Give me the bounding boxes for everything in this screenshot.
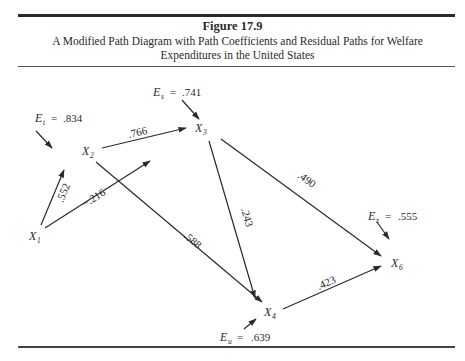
svg-text:X: X — [194, 121, 203, 135]
bottom-rule — [18, 346, 455, 348]
residual-et-x2 — [36, 131, 52, 148]
svg-text:z: z — [375, 216, 379, 225]
path-arrows — [36, 100, 389, 329]
svg-text:.741: .741 — [182, 86, 201, 98]
node-x4: X4 — [263, 305, 276, 321]
svg-text:u: u — [228, 337, 232, 346]
coef-x2-x4: .588 — [182, 229, 205, 251]
residual-es-label: Es =.741 — [152, 85, 201, 101]
svg-text:=: = — [51, 112, 57, 124]
residual-eu-label: Eu =.639 — [219, 330, 271, 346]
svg-text:.639: .639 — [251, 331, 271, 343]
svg-text:6: 6 — [399, 263, 403, 272]
residual-ez-label: Ez =.555 — [367, 209, 418, 225]
svg-text:s: s — [161, 92, 164, 101]
path-diagram: X1 X2 X3 X4 X6 Et =.834 Es =.741 Ez =.55… — [0, 0, 465, 361]
path-x2-x4 — [96, 162, 262, 302]
coef-x3-x4: .243 — [239, 206, 256, 228]
svg-text:.834: .834 — [63, 112, 83, 124]
svg-text:E: E — [219, 330, 228, 344]
coef-x1-x2: .552 — [54, 181, 72, 203]
svg-text:1: 1 — [37, 236, 41, 245]
node-x6: X6 — [390, 256, 403, 272]
svg-text:E: E — [152, 85, 161, 99]
svg-text:=: = — [385, 210, 391, 222]
path-x3-x6 — [221, 139, 381, 256]
svg-text:2: 2 — [90, 151, 94, 160]
svg-text:=: = — [237, 331, 243, 343]
coef-x4-x6: .423 — [315, 273, 338, 292]
svg-text:E: E — [367, 209, 376, 223]
residual-es-x3 — [182, 100, 199, 119]
coef-x1-x3: −.216 — [80, 185, 108, 209]
node-x3: X3 — [194, 121, 207, 137]
node-x1: X1 — [28, 229, 41, 245]
svg-text:4: 4 — [272, 312, 276, 321]
svg-text:X: X — [390, 256, 399, 270]
svg-text:X: X — [81, 144, 90, 158]
svg-text:.555: .555 — [398, 210, 418, 222]
svg-text:3: 3 — [202, 128, 207, 137]
node-x2: X2 — [81, 144, 94, 160]
residual-eu-x4 — [244, 319, 256, 329]
svg-text:E: E — [34, 111, 43, 125]
svg-text:X: X — [28, 229, 37, 243]
svg-text:t: t — [43, 118, 46, 127]
svg-text:=: = — [170, 86, 176, 98]
svg-text:X: X — [263, 305, 272, 319]
coef-x3-x6: .490 — [296, 169, 319, 190]
residual-et-label: Et =.834 — [34, 111, 83, 127]
